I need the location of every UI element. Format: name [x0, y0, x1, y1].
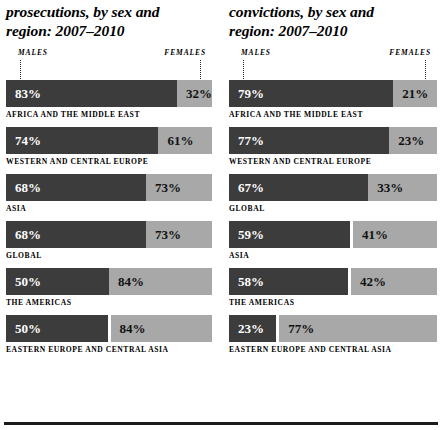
bar-value-females: 61%	[167, 134, 193, 147]
bar-region-label: AFRICA AND THE MIDDLE EAST	[229, 110, 437, 119]
panel-title-convictions: convictions, by sex and region: 2007–201…	[229, 2, 437, 48]
bar-value-males: 50%	[15, 275, 41, 288]
bar-region-label: ASIA	[6, 204, 212, 213]
legend-tick-males	[20, 60, 22, 79]
stacked-bar: 68%73%	[6, 174, 212, 201]
bar-segment-males: 23%	[229, 315, 276, 342]
bar-segment-females: 21%	[393, 80, 437, 107]
bar-region-label: ASIA	[229, 251, 437, 260]
stacked-bar: 67%33%	[229, 174, 437, 201]
bar-row: 23%77%EASTERN EUROPE AND CENTRAL ASIA	[229, 315, 437, 354]
stacked-bar: 58%42%	[229, 268, 437, 295]
legend-tick-males	[243, 60, 245, 79]
bar-value-females: 32%	[186, 87, 212, 100]
bar-row: 68%73%GLOBAL	[6, 221, 212, 260]
bar-value-males: 50%	[15, 322, 41, 335]
bar-segment-females: 32%	[177, 80, 212, 107]
bar-value-males: 58%	[238, 275, 264, 288]
legend-prosecutions: MALES FEMALES	[6, 48, 212, 80]
bar-region-label: AFRICA AND THE MIDDLE EAST	[6, 110, 212, 119]
bar-segment-females: 73%	[146, 174, 212, 201]
bar-row: 74%61%WESTERN AND CENTRAL EUROPE	[6, 127, 212, 166]
bar-segment-males: 77%	[229, 127, 389, 154]
bar-value-males: 77%	[238, 134, 264, 147]
panel-title-line2: region: 2007–2010	[229, 21, 437, 40]
panel-convictions: convictions, by sex and region: 2007–201…	[221, 0, 442, 362]
bar-region-label: GLOBAL	[229, 204, 437, 213]
bar-row: 59%41%ASIA	[229, 221, 437, 260]
legend-tick-females	[200, 60, 202, 79]
bar-region-label: THE AMERICAS	[6, 298, 212, 307]
bar-row: 79%21%AFRICA AND THE MIDDLE EAST	[229, 80, 437, 119]
bottom-rule	[4, 422, 438, 425]
panel-title-line2: region: 2007–2010	[6, 21, 212, 40]
bar-segment-females: 41%	[353, 221, 437, 248]
figure-sheet: prosecutions, by sex and region: 2007–20…	[0, 0, 442, 430]
bar-region-label: THE AMERICAS	[229, 298, 437, 307]
bar-segment-males: 68%	[6, 174, 146, 201]
bar-row: 68%73%ASIA	[6, 174, 212, 213]
stacked-bar: 68%73%	[6, 221, 212, 248]
stacked-bar: 79%21%	[229, 80, 437, 107]
bar-row: 50%84%EASTERN EUROPE AND CENTRAL ASIA	[6, 315, 212, 354]
bar-segment-males: 59%	[229, 221, 350, 248]
bar-value-males: 68%	[15, 181, 41, 194]
stacked-bar: 23%77%	[229, 315, 437, 342]
bar-value-males: 23%	[238, 322, 264, 335]
bar-region-label: EASTERN EUROPE AND CENTRAL ASIA	[6, 345, 212, 354]
legend-tick-females	[425, 60, 427, 79]
bar-value-males: 68%	[15, 228, 41, 241]
bar-value-females: 21%	[402, 87, 428, 100]
stacked-bar: 59%41%	[229, 221, 437, 248]
bar-region-label: EASTERN EUROPE AND CENTRAL ASIA	[229, 345, 437, 354]
bar-value-females: 23%	[398, 134, 424, 147]
bar-row: 67%33%GLOBAL	[229, 174, 437, 213]
legend-label-females: FEMALES	[389, 48, 431, 57]
bar-segment-males: 83%	[6, 80, 177, 107]
bar-value-females: 42%	[360, 275, 386, 288]
bar-segment-males: 79%	[229, 80, 393, 107]
stacked-bar: 50%84%	[6, 268, 212, 295]
bar-segment-females: 33%	[368, 174, 437, 201]
stacked-bar: 83%32%	[6, 80, 212, 107]
legend-label-females: FEMALES	[164, 48, 206, 57]
bar-segment-females: 77%	[279, 315, 437, 342]
bar-segment-females: 84%	[109, 268, 212, 295]
bar-value-females: 84%	[120, 322, 146, 335]
bar-segment-females: 84%	[111, 315, 213, 342]
bar-value-females: 73%	[155, 181, 181, 194]
legend-convictions: MALES FEMALES	[229, 48, 437, 80]
bar-value-males: 59%	[238, 228, 264, 241]
bar-rows-convictions: 79%21%AFRICA AND THE MIDDLE EAST77%23%WE…	[229, 80, 437, 354]
bar-segment-males: 68%	[6, 221, 146, 248]
bar-value-males: 67%	[238, 181, 264, 194]
bar-value-females: 41%	[362, 228, 388, 241]
bar-value-males: 79%	[238, 87, 264, 100]
panel-prosecutions: prosecutions, by sex and region: 2007–20…	[0, 0, 221, 362]
panel-title-prosecutions: prosecutions, by sex and region: 2007–20…	[6, 2, 212, 48]
bar-value-females: 84%	[118, 275, 144, 288]
bar-row: 77%23%WESTERN AND CENTRAL EUROPE	[229, 127, 437, 166]
bar-segment-males: 50%	[6, 268, 109, 295]
bar-value-females: 73%	[155, 228, 181, 241]
panel-title-line1: convictions, by sex and	[229, 2, 437, 21]
bar-segment-females: 73%	[146, 221, 212, 248]
stacked-bar: 50%84%	[6, 315, 212, 342]
bar-segment-males: 67%	[229, 174, 368, 201]
bar-row: 83%32%AFRICA AND THE MIDDLE EAST	[6, 80, 212, 119]
panels-container: prosecutions, by sex and region: 2007–20…	[0, 0, 442, 362]
panel-title-line1: prosecutions, by sex and	[6, 2, 212, 21]
bar-region-label: WESTERN AND CENTRAL EUROPE	[229, 157, 437, 166]
bar-segment-males: 50%	[6, 315, 108, 342]
bar-region-label: GLOBAL	[6, 251, 212, 260]
stacked-bar: 74%61%	[6, 127, 212, 154]
bar-value-males: 83%	[15, 87, 41, 100]
bar-segment-females: 61%	[158, 127, 212, 154]
legend-label-males: MALES	[241, 48, 271, 57]
bar-segment-males: 58%	[229, 268, 348, 295]
bar-segment-males: 74%	[6, 127, 158, 154]
bar-row: 50%84%THE AMERICAS	[6, 268, 212, 307]
bar-value-females: 77%	[288, 322, 314, 335]
bar-rows-prosecutions: 83%32%AFRICA AND THE MIDDLE EAST74%61%WE…	[6, 80, 212, 354]
bar-segment-females: 23%	[389, 127, 437, 154]
